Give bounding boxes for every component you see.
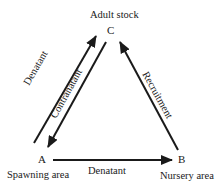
arrow-b-to-c [120,42,178,150]
edge-a-to-b-label: Denatant [88,166,126,177]
node-c-name: Adult stock [90,10,139,21]
node-a-letter: A [38,154,46,165]
node-b-letter: B [178,154,185,165]
node-b-name: Nursery area [160,171,214,182]
node-a-name: Spawning area [7,170,69,181]
node-c-letter: C [107,25,114,36]
arrow-c-to-a [48,42,106,147]
